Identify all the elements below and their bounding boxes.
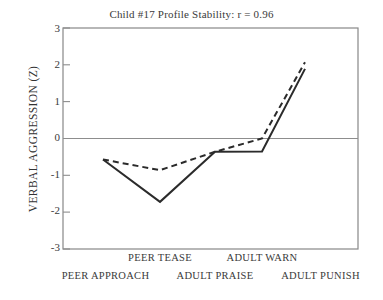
series-line-time2 <box>103 62 305 170</box>
chart-page: Child #17 Profile Stability: r = 0.96 VE… <box>0 0 383 300</box>
x-label-peer-approach: PEER APPROACH <box>48 270 163 281</box>
x-label-adult-praise: ADULT PRAISE <box>165 270 265 281</box>
x-label-adult-punish: ADULT PUNISH <box>268 270 373 281</box>
series-line-time1 <box>103 69 305 202</box>
data-series-group <box>103 62 305 202</box>
x-label-adult-warn: ADULT WARN <box>212 252 312 263</box>
axes-frame <box>63 28 358 249</box>
x-label-peer-tease: PEER TEASE <box>110 252 210 263</box>
